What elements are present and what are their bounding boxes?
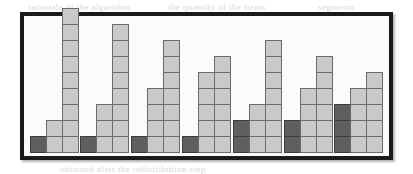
light-unit-block — [163, 56, 180, 73]
light-unit-block — [96, 120, 113, 137]
light-unit-block — [366, 104, 383, 121]
histogram-column[interactable] — [30, 136, 46, 152]
histogram-column[interactable] — [214, 56, 230, 152]
light-unit-block — [316, 88, 333, 105]
histogram-group — [284, 56, 332, 152]
histogram-column[interactable] — [233, 120, 249, 152]
histogram-column[interactable] — [132, 136, 148, 152]
histogram-column[interactable] — [164, 40, 180, 152]
histogram-group — [132, 40, 180, 152]
light-unit-block — [265, 136, 282, 153]
light-unit-block — [163, 72, 180, 89]
light-unit-block — [62, 40, 79, 57]
light-unit-block — [316, 72, 333, 89]
histogram-column[interactable] — [46, 120, 62, 152]
light-unit-block — [112, 136, 129, 153]
light-unit-block — [316, 120, 333, 137]
histogram-column[interactable] — [113, 24, 129, 152]
light-unit-block — [147, 88, 164, 105]
histogram-group — [81, 24, 129, 152]
histogram-column[interactable] — [351, 88, 367, 152]
light-unit-block — [112, 120, 129, 137]
light-unit-block — [147, 136, 164, 153]
light-unit-block — [350, 136, 367, 153]
light-unit-block — [300, 104, 317, 121]
light-unit-block — [265, 88, 282, 105]
figure-frame — [20, 12, 393, 160]
dark-unit-block — [233, 136, 250, 153]
light-unit-block — [198, 136, 215, 153]
light-unit-block — [112, 72, 129, 89]
background-text-line: the quantity of the items — [168, 2, 265, 12]
light-unit-block — [316, 56, 333, 73]
light-unit-block — [198, 88, 215, 105]
light-unit-block — [350, 104, 367, 121]
light-unit-block — [112, 104, 129, 121]
histogram-group — [182, 56, 230, 152]
background-text-line: obtained after the redistribution step — [60, 164, 206, 174]
histogram-column[interactable] — [367, 72, 383, 152]
light-unit-block — [112, 56, 129, 73]
light-unit-block — [300, 136, 317, 153]
light-unit-block — [214, 72, 231, 89]
histogram-column[interactable] — [284, 120, 300, 152]
dark-unit-block — [182, 136, 199, 153]
light-unit-block — [46, 120, 63, 137]
histogram-column[interactable] — [97, 104, 113, 152]
light-unit-block — [62, 88, 79, 105]
histogram-column[interactable] — [198, 72, 214, 152]
light-unit-block — [300, 88, 317, 105]
dark-unit-block — [284, 136, 301, 153]
light-unit-block — [366, 72, 383, 89]
histogram-column[interactable] — [265, 40, 281, 152]
light-unit-block — [198, 104, 215, 121]
light-unit-block — [265, 40, 282, 57]
light-unit-block — [265, 56, 282, 73]
histogram-column[interactable] — [316, 56, 332, 152]
light-unit-block — [147, 104, 164, 121]
light-unit-block — [46, 136, 63, 153]
light-unit-block — [198, 72, 215, 89]
light-unit-block — [265, 120, 282, 137]
light-unit-block — [96, 136, 113, 153]
histogram-column[interactable] — [300, 88, 316, 152]
light-unit-block — [300, 120, 317, 137]
light-unit-block — [112, 88, 129, 105]
light-unit-block — [62, 104, 79, 121]
light-unit-block — [316, 136, 333, 153]
histogram-column[interactable] — [148, 88, 164, 152]
dark-unit-block — [233, 120, 250, 137]
light-unit-block — [249, 104, 266, 121]
light-unit-block — [214, 56, 231, 73]
dark-unit-block — [80, 136, 97, 153]
light-unit-block — [214, 88, 231, 105]
histogram-group — [335, 72, 383, 152]
light-unit-block — [265, 104, 282, 121]
light-unit-block — [163, 88, 180, 105]
light-unit-block — [163, 136, 180, 153]
dark-unit-block — [284, 120, 301, 137]
histogram-column[interactable] — [249, 104, 265, 152]
light-unit-block — [214, 136, 231, 153]
light-unit-block — [62, 120, 79, 137]
light-unit-block — [366, 120, 383, 137]
light-unit-block — [350, 120, 367, 137]
light-unit-block — [249, 136, 266, 153]
light-unit-block — [350, 88, 367, 105]
light-unit-block — [112, 24, 129, 41]
light-unit-block — [62, 72, 79, 89]
histogram-column[interactable] — [62, 8, 78, 152]
light-unit-block — [316, 104, 333, 121]
light-unit-block — [147, 120, 164, 137]
dark-unit-block — [30, 136, 47, 153]
light-unit-block — [62, 56, 79, 73]
histogram-column[interactable] — [182, 136, 198, 152]
light-unit-block — [249, 120, 266, 137]
light-unit-block — [214, 120, 231, 137]
light-unit-block — [265, 72, 282, 89]
histogram-column[interactable] — [81, 136, 97, 152]
light-unit-block — [62, 8, 79, 25]
dark-unit-block — [334, 136, 351, 153]
histogram-column[interactable] — [335, 104, 351, 152]
light-unit-block — [163, 120, 180, 137]
